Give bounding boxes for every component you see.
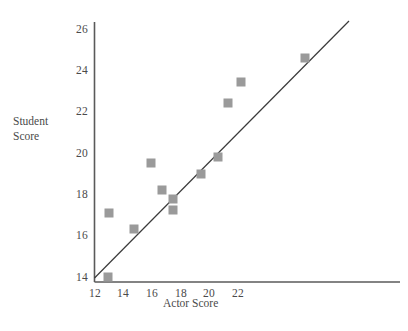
y-tick-label-20: 20 — [64, 148, 88, 160]
data-point — [169, 206, 178, 215]
data-point — [147, 159, 156, 168]
y-tick-label-18: 18 — [64, 189, 88, 201]
y-tick-label-14: 14 — [64, 272, 88, 284]
y-tick-label-16: 16 — [64, 230, 88, 242]
x-tick-label-16: 16 — [146, 288, 158, 300]
data-point — [130, 225, 139, 234]
data-point — [301, 54, 310, 63]
x-tick-label-22: 22 — [232, 288, 244, 300]
reference-line — [95, 21, 350, 278]
data-point — [169, 195, 178, 204]
data-point — [105, 209, 114, 218]
x-axis-title: Actor Score — [163, 297, 218, 309]
data-point — [197, 170, 206, 179]
x-tick-label-14: 14 — [117, 288, 129, 300]
data-point — [237, 78, 246, 87]
scatter-chart: 26 24 22 20 18 16 14 12 14 16 18 20 22 S… — [0, 0, 408, 331]
x-tick-label-12: 12 — [89, 288, 101, 300]
data-point — [104, 273, 113, 282]
y-axis-title: Student Score — [13, 114, 48, 144]
y-axis-title-line1: Student — [13, 114, 48, 129]
y-axis-title-line2: Score — [13, 129, 48, 144]
data-point — [158, 186, 167, 195]
data-point — [224, 99, 233, 108]
y-tick-label-26: 26 — [64, 24, 88, 36]
data-points — [104, 54, 310, 282]
y-tick-label-24: 24 — [64, 65, 88, 77]
data-point — [214, 153, 223, 162]
plot-area — [0, 0, 408, 331]
y-tick-label-22: 22 — [64, 106, 88, 118]
